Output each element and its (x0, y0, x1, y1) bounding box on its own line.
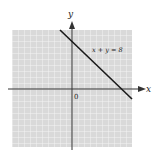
equation-label: x + y = 8 (92, 46, 123, 54)
y-axis-label: y (67, 9, 74, 19)
x-axis-arrow-icon (138, 86, 146, 92)
y-axis-arrow-icon (69, 21, 75, 29)
origin-label: 0 (74, 93, 78, 101)
coordinate-plane: y x 0 x + y = 8 (0, 0, 155, 159)
x-axis-label: x (146, 84, 151, 94)
